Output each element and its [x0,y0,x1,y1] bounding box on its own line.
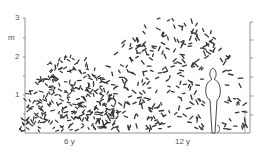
shrub-12-years [93,18,247,132]
shrub-growth-diagram [0,0,264,157]
shrub-6-years [20,55,120,132]
right-axis [250,22,253,133]
human-figure-scale [206,68,221,133]
